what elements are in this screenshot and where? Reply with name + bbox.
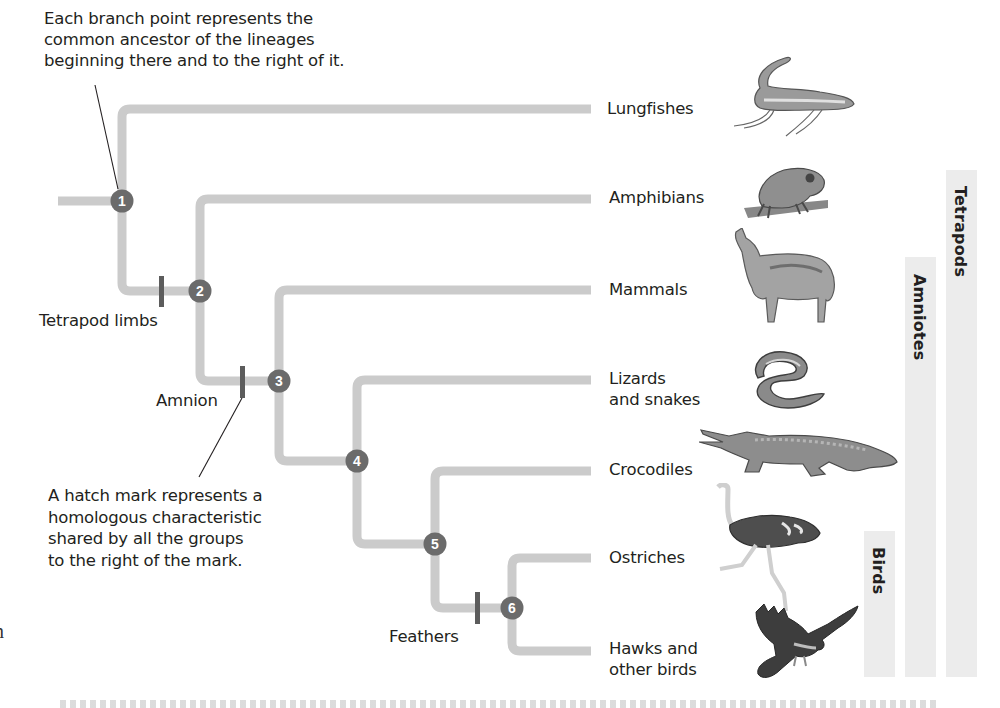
hatch-mark-amnion (240, 366, 245, 398)
hatch-mark-note: A hatch mark represents a homologous cha… (48, 485, 262, 571)
taxon-label-crocodiles: Crocodiles (609, 459, 693, 480)
taxon-line: Lizards (609, 368, 700, 389)
node-1: 1 (111, 190, 134, 213)
taxon-line: other birds (609, 659, 698, 680)
node-6: 6 (501, 597, 524, 620)
node-3: 3 (268, 370, 291, 393)
svg-text:2: 2 (196, 283, 204, 299)
clade-bar-tetrapods: Tetrapods (946, 170, 977, 677)
taxon-label-hawks-and-other-birds: Hawks and other birds (609, 638, 698, 680)
svg-text:6: 6 (508, 600, 516, 616)
svg-text:1: 1 (118, 193, 126, 209)
note-line: to the right of the mark. (48, 550, 262, 572)
hatch-mark-feathers (475, 592, 480, 624)
taxon-label-lizards-and-snakes: Lizards and snakes (609, 368, 700, 410)
branch-point-note: Each branch point represents the common … (44, 8, 344, 71)
note-line: Each branch point represents the (44, 8, 344, 29)
taxon-label-mammals: Mammals (609, 279, 687, 300)
wolf-illustration (730, 228, 838, 328)
taxon-line: Hawks and (609, 638, 698, 659)
branch-node4 (357, 380, 591, 544)
frog-illustration (744, 164, 830, 220)
taxon-label-lungfishes: Lungfishes (607, 98, 694, 119)
cropped-caption-strip (60, 700, 940, 708)
svg-text:4: 4 (353, 453, 361, 469)
pointer-line-branch-point (95, 85, 118, 189)
trait-label-amnion: Amnion (156, 391, 218, 411)
clade-bar-amniotes: Amniotes (905, 257, 936, 677)
trait-label-tetrapod-limbs: Tetrapod limbs (39, 311, 158, 331)
branch-node6 (512, 558, 591, 651)
node-4: 4 (346, 450, 369, 473)
trait-label-feathers: Feathers (389, 627, 459, 647)
clade-bar-birds: Birds (864, 531, 895, 677)
hawk-illustration (752, 604, 860, 682)
node-2: 2 (189, 280, 212, 303)
note-line: shared by all the groups (48, 528, 262, 550)
lungfish-illustration (730, 56, 858, 138)
ostrich-illustration (712, 483, 832, 615)
clade-label-tetrapods: Tetrapods (951, 186, 970, 277)
note-line: homologous characteristic (48, 507, 262, 529)
note-line: A hatch mark represents a (48, 485, 262, 507)
hatch-mark-tetrapod-limbs (159, 276, 164, 307)
snake-illustration (748, 348, 826, 410)
svg-text:3: 3 (275, 373, 283, 389)
cropped-text-fragment: n (0, 620, 4, 643)
node-5: 5 (424, 533, 447, 556)
note-line: common ancestor of the lineages (44, 29, 344, 50)
note-line: beginning there and to the right of it. (44, 50, 344, 71)
clade-label-birds: Birds (869, 547, 888, 595)
crocodile-illustration (699, 426, 899, 480)
taxon-label-amphibians: Amphibians (609, 187, 704, 208)
taxon-label-ostriches: Ostriches (609, 547, 685, 568)
taxon-line: and snakes (609, 389, 700, 410)
clade-label-amniotes: Amniotes (910, 274, 929, 361)
svg-text:5: 5 (431, 536, 439, 552)
